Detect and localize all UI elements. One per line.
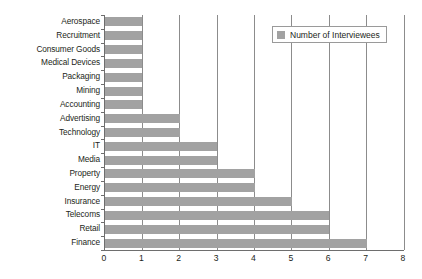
category-axis: AerospaceRecruitmentConsumer GoodsMedica… <box>0 15 100 250</box>
bar-packaging <box>105 73 142 82</box>
x-tick-label-3: 3 <box>204 253 228 263</box>
category-tick-9 <box>101 139 105 140</box>
category-tick-13 <box>101 195 105 196</box>
category-tick-12 <box>101 181 105 182</box>
category-label-property: Property <box>0 169 100 178</box>
category-tick-11 <box>101 167 105 168</box>
x-tick-label-8: 8 <box>391 253 415 263</box>
category-tick-3 <box>101 56 105 57</box>
bar-finance <box>105 239 367 248</box>
gridline-x-7 <box>366 15 367 250</box>
category-tick-10 <box>101 153 105 154</box>
category-tick-4 <box>101 70 105 71</box>
category-tick-14 <box>101 209 105 210</box>
category-label-insurance: Insurance <box>0 197 100 206</box>
category-tick-5 <box>101 84 105 85</box>
category-label-energy: Energy <box>0 183 100 192</box>
plot-area <box>104 15 404 251</box>
category-tick-2 <box>101 43 105 44</box>
x-tick-label-5: 5 <box>279 253 303 263</box>
category-tick-7 <box>101 112 105 113</box>
bar-medical-devices <box>105 59 142 68</box>
bar-accounting <box>105 100 142 109</box>
category-label-media: Media <box>0 155 100 164</box>
bar-consumer-goods <box>105 45 142 54</box>
bar-technology <box>105 128 180 137</box>
category-label-technology: Technology <box>0 128 100 137</box>
gridline-x-8 <box>404 15 405 250</box>
category-label-recruitment: Recruitment <box>0 31 100 40</box>
category-label-telecoms: Telecoms <box>0 210 100 219</box>
chart-legend: Number of Interviewees <box>272 26 387 43</box>
category-label-advertising: Advertising <box>0 114 100 123</box>
bar-it <box>105 142 217 151</box>
category-tick-6 <box>101 98 105 99</box>
category-tick-0 <box>101 15 105 16</box>
bar-media <box>105 156 217 165</box>
category-tick-16 <box>101 236 105 237</box>
category-label-finance: Finance <box>0 238 100 247</box>
category-label-it: IT <box>0 141 100 150</box>
bar-aerospace <box>105 17 142 26</box>
category-tick-8 <box>101 126 105 127</box>
category-tick-15 <box>101 222 105 223</box>
x-tick-label-2: 2 <box>167 253 191 263</box>
x-tick-label-0: 0 <box>92 253 116 263</box>
x-tick-label-6: 6 <box>316 253 340 263</box>
category-label-aerospace: Aerospace <box>0 17 100 26</box>
x-tick-label-1: 1 <box>129 253 153 263</box>
legend-color-swatch-number-of-interviewees <box>277 31 285 39</box>
bar-energy <box>105 183 255 192</box>
legend-label-number-of-interviewees: Number of Interviewees <box>290 30 380 40</box>
horizontal-bar-chart: AerospaceRecruitmentConsumer GoodsMedica… <box>0 0 422 279</box>
x-tick-label-4: 4 <box>242 253 266 263</box>
category-label-medical-devices: Medical Devices <box>0 58 100 67</box>
bar-recruitment <box>105 31 142 40</box>
category-label-retail: Retail <box>0 224 100 233</box>
category-label-accounting: Accounting <box>0 100 100 109</box>
bar-advertising <box>105 114 180 123</box>
bar-mining <box>105 87 142 96</box>
bar-property <box>105 169 255 178</box>
value-axis: 012345678 <box>104 253 403 267</box>
category-label-mining: Mining <box>0 86 100 95</box>
category-label-consumer-goods: Consumer Goods <box>0 45 100 54</box>
bar-telecoms <box>105 211 329 220</box>
category-tick-end <box>101 250 105 251</box>
category-label-packaging: Packaging <box>0 72 100 81</box>
x-tick-label-7: 7 <box>354 253 378 263</box>
bar-insurance <box>105 197 292 206</box>
bar-retail <box>105 225 329 234</box>
category-tick-1 <box>101 29 105 30</box>
